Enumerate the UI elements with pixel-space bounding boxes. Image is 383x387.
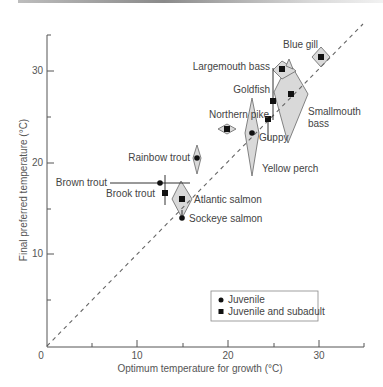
scatter-chart: 0 10 20 30 10 20 30 Optimum temperature … — [0, 0, 383, 387]
marker-largemouth-bass — [279, 66, 285, 72]
label-brook-trout: Brook trout — [106, 188, 155, 199]
label-northern-pike: Northern pike — [209, 109, 269, 120]
y-axis-title: Final preferred temperature (°C) — [18, 119, 29, 261]
marker-rainbow-trout — [194, 155, 200, 161]
label-guppy: Guppy — [259, 132, 288, 143]
y-tick-label-20: 20 — [32, 157, 44, 168]
x-tick-label-0: 0 — [38, 350, 44, 361]
label-atlantic-salmon: Atlantic salmon — [194, 194, 262, 205]
marker-atlantic-salmon — [179, 196, 185, 202]
label-yellow-perch: Yellow perch — [262, 163, 318, 174]
marker-brown-trout — [157, 180, 163, 186]
marker-sockeye-salmon — [179, 215, 185, 221]
label-goldfish: Goldfish — [233, 84, 270, 95]
x-tick-label-20: 20 — [222, 350, 234, 361]
marker-yellow-perch — [249, 130, 255, 136]
label-largemouth-bass: Largemouth bass — [193, 61, 270, 72]
marker-goldfish — [270, 98, 276, 104]
marker-northern-pike — [224, 126, 230, 132]
legend-label-juvenile-subadult: Juvenile and subadult — [228, 306, 325, 317]
legend-label-juvenile: Juvenile — [228, 294, 265, 305]
y-tick-label-10: 10 — [32, 248, 44, 259]
legend-circle-icon — [219, 298, 224, 303]
label-brown-trout: Brown trout — [56, 177, 107, 188]
marker-smallmouth-bass — [288, 91, 294, 97]
x-tick-label-10: 10 — [131, 350, 143, 361]
marker-blue-gill — [318, 54, 324, 60]
label-smallmouth-line1: Smallmouth — [308, 106, 361, 117]
label-rainbow-trout: Rainbow trout — [128, 152, 190, 163]
marker-brook-trout — [162, 190, 168, 196]
label-sockeye-salmon: Sockeye salmon — [189, 213, 262, 224]
y-tick-label-30: 30 — [32, 65, 44, 76]
x-axis-title: Optimum temperature for growth (°C) — [117, 363, 282, 374]
label-smallmouth-line2: bass — [308, 118, 329, 129]
label-blue-gill: Blue gill — [283, 39, 318, 50]
x-tick-label-30: 30 — [313, 350, 325, 361]
legend: Juvenile Juvenile and subadult — [211, 291, 325, 321]
legend-square-icon — [219, 309, 224, 314]
